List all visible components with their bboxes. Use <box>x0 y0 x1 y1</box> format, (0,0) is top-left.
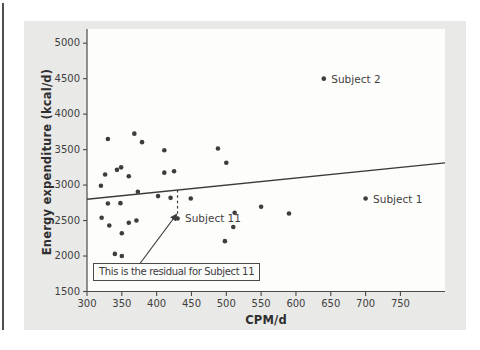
data-point <box>231 225 236 230</box>
data-point <box>287 211 292 216</box>
data-point <box>223 239 228 244</box>
data-point <box>188 196 193 201</box>
data-point <box>224 160 229 165</box>
data-point <box>103 172 108 177</box>
data-point <box>172 169 177 174</box>
data-point <box>99 215 104 220</box>
data-point <box>162 148 167 153</box>
data-point <box>232 210 237 215</box>
scatter-plot <box>0 0 480 350</box>
data-point <box>162 170 167 175</box>
data-point <box>156 194 161 199</box>
data-point <box>106 201 111 206</box>
data-point <box>134 218 139 223</box>
plot-area <box>87 29 445 292</box>
data-point <box>120 254 125 259</box>
data-point <box>113 252 118 257</box>
data-point <box>140 140 145 145</box>
data-point <box>259 204 264 209</box>
data-point <box>115 168 120 173</box>
data-point <box>106 137 111 142</box>
subject-point-subject-1 <box>363 196 368 201</box>
data-point <box>99 183 104 188</box>
data-point <box>126 174 131 179</box>
subject-point-subject-11 <box>175 216 180 221</box>
data-point <box>168 196 173 201</box>
data-point <box>132 131 137 136</box>
data-point <box>118 201 123 206</box>
data-point <box>119 165 124 170</box>
subject-point-subject-2 <box>322 76 327 81</box>
data-point <box>107 223 112 228</box>
data-point <box>136 190 141 195</box>
data-point <box>126 220 131 225</box>
data-point <box>120 231 125 236</box>
data-point <box>216 146 221 151</box>
